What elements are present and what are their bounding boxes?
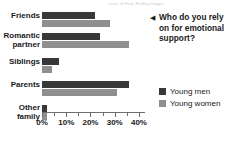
x-axis-line — [42, 112, 145, 113]
left-triangle-icon: ◀ — [150, 13, 155, 23]
x-tick-25 — [103, 113, 104, 116]
chart-title: Who do you rely on for emotional support… — [159, 12, 227, 44]
legend-item: Young men — [159, 86, 227, 97]
bar-friends-young-men — [42, 12, 95, 19]
x-tick-label-30: 30% — [107, 118, 123, 127]
legend-label: Young men — [170, 86, 210, 97]
legend-swatch-icon — [159, 100, 166, 107]
bar-romantic-partner-young-men — [42, 33, 100, 40]
x-tick-label-40: 40% — [131, 118, 147, 127]
chart-figure: nose_of Fred, Fredtry Images FriendsRoma… — [0, 0, 227, 146]
x-tick-label-0: 0% — [36, 118, 48, 127]
legend-swatch-icon — [159, 88, 166, 95]
category-label-other-family: Otherfamily — [0, 104, 40, 121]
category-label-parents: Parents — [0, 81, 40, 90]
x-tick-35 — [127, 113, 128, 116]
x-tick-label-10: 10% — [58, 118, 74, 127]
x-tick-5 — [54, 113, 55, 116]
bar-siblings-young-women — [42, 66, 52, 73]
x-tick-30 — [115, 113, 116, 117]
bar-romantic-partner-young-women — [42, 41, 129, 48]
x-tick-20 — [90, 113, 91, 117]
category-label-friends: Friends — [0, 12, 40, 21]
bar-parents-young-women — [42, 89, 117, 96]
x-tick-40 — [139, 113, 140, 117]
category-label-romantic-partner: Romanticpartner — [0, 32, 40, 49]
x-tick-10 — [66, 113, 67, 117]
bar-group-container — [42, 8, 150, 121]
chart-legend: Young menYoung women — [159, 86, 227, 110]
category-label-siblings: Siblings — [0, 58, 40, 67]
legend-item: Young women — [159, 98, 227, 109]
x-tick-label-20: 20% — [82, 118, 98, 127]
bar-parents-young-men — [42, 81, 129, 88]
side-panel: ◀ Who do you rely on for emotional suppo… — [150, 8, 227, 138]
x-tick-15 — [78, 113, 79, 116]
bar-siblings-young-men — [42, 58, 59, 65]
category-axis-labels: FriendsRomanticpartnerSiblingsParentsOth… — [0, 8, 40, 121]
bar-friends-young-women — [42, 20, 110, 27]
watermark-text: nose_of Fred, Fredtry Images — [88, 0, 184, 7]
legend-label: Young women — [170, 98, 220, 109]
x-tick-0 — [42, 113, 43, 117]
bar-other-family-young-men — [42, 105, 47, 112]
